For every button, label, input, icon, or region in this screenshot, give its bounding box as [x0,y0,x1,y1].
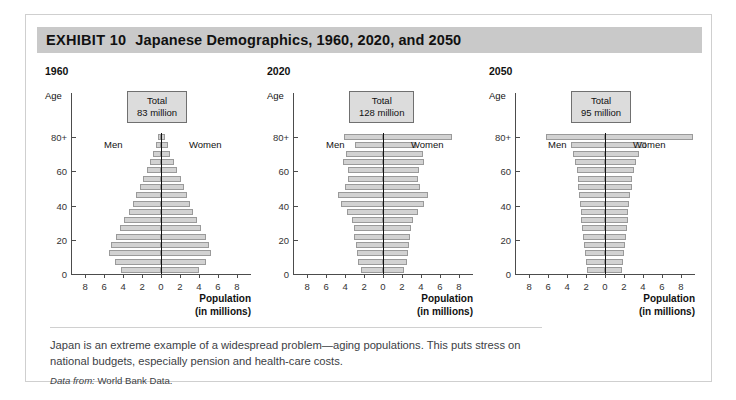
bar-men [124,217,161,223]
bar-women [161,201,190,207]
x-tick [643,274,644,278]
x-tick [104,274,105,278]
x-tick [402,274,403,278]
bar-men [581,217,605,223]
bar-men [579,192,605,198]
bar-men [581,209,605,215]
y-tick [515,274,520,275]
bar-men [357,250,383,256]
x-axis-title-line2: (in millions) [639,306,695,319]
x-axis-title-line1: Population [639,293,695,306]
bar-women [383,259,407,265]
exhibit-figure: EXHIBIT 10Japanese Demographics, 1960, 2… [0,0,736,400]
y-tick-label: 40 [278,200,289,211]
bar-women [383,192,428,198]
total-box: Total128 million [349,91,414,123]
x-tick [624,274,625,278]
x-tick-label: 2 [621,281,626,292]
x-tick [180,274,181,278]
bar-women [605,242,625,248]
total-value: 128 million [359,107,404,119]
plot-area: Age020406080+864202468Total95 millionMen… [489,93,695,285]
page-title: EXHIBIT 10Japanese Demographics, 1960, 2… [37,32,461,48]
bar-women [605,209,628,215]
bar-women [605,259,623,265]
bar-women [161,217,197,223]
bar-women [605,225,627,231]
bar-women [383,234,410,240]
y-axis-title: Age [267,90,284,101]
legend-men-label: Men [548,139,566,150]
bar-women [605,201,629,207]
x-tick-label: 8 [678,281,683,292]
x-tick [85,274,86,278]
x-tick-label: 2 [177,281,182,292]
bar-men [133,201,161,207]
bar-women [383,267,404,273]
x-tick [307,274,308,278]
bar-women [605,151,639,157]
source-prefix: Data from: [50,375,95,386]
bar-men [129,209,161,215]
bar-women [161,159,174,165]
exhibit-label: EXHIBIT 10 [46,32,126,48]
bar-women [161,234,206,240]
bar-women [161,151,170,157]
plot-area: Age020406080+864202468Total128 millionMe… [267,93,473,285]
x-tick [548,274,549,278]
center-axis-line [383,133,384,274]
bar-men [150,159,161,165]
x-tick [364,274,365,278]
y-axis-title: Age [45,90,62,101]
x-tick-label: 0 [602,281,607,292]
x-tick-label: 2 [139,281,144,292]
source-text: World Bank Data. [97,375,172,386]
x-tick-label: 4 [418,281,423,292]
bar-women [161,192,187,198]
y-tick-label: 60 [500,166,511,177]
bar-men [115,259,161,265]
x-tick-label: 4 [342,281,347,292]
x-tick-label: 4 [196,281,201,292]
total-caption: Total [137,95,177,107]
bar-men [578,184,605,190]
pyramid-panels: 1960Age020406080+864202468Total83 millio… [37,65,702,315]
x-axis-title-line2: (in millions) [417,306,473,319]
bar-men [345,184,383,190]
bar-women [605,176,632,182]
y-tick-label: 0 [506,269,511,280]
bar-women [383,209,418,215]
bar-men [585,250,605,256]
exhibit-card: EXHIBIT 10Japanese Demographics, 1960, 2… [25,14,712,382]
y-tick-label: 80+ [273,132,289,143]
x-tick-label: 4 [640,281,645,292]
bar-men [116,234,161,240]
legend-men-label: Men [326,139,344,150]
caption-divider [50,327,542,328]
bar-men [354,234,383,240]
x-axis-title-line1: Population [195,293,251,306]
x-tick-label: 2 [399,281,404,292]
bar-men [575,159,605,165]
x-axis-title: Population(in millions) [639,293,695,318]
caption-text: Japan is an extreme example of a widespr… [50,337,550,369]
x-tick-label: 6 [324,281,329,292]
y-tick-label: 60 [278,166,289,177]
y-tick-label: 0 [62,269,67,280]
total-box: Total83 million [127,91,187,123]
x-tick-label: 8 [83,281,88,292]
x-tick [142,274,143,278]
bar-men [573,151,605,157]
bar-men [571,142,605,148]
x-tick-label: 8 [234,281,239,292]
bar-women [383,184,420,190]
bar-men [348,167,383,173]
bar-men [583,234,605,240]
bar-men [341,201,383,207]
exhibit-title: Japanese Demographics, 1960, 2020, and 2… [135,32,461,48]
bar-men [111,242,161,248]
bar-men [346,151,383,157]
x-tick-label: 6 [437,281,442,292]
bar-men [120,225,161,231]
x-axis-title-line1: Population [417,293,473,306]
